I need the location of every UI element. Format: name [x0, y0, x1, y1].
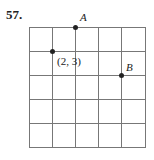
point-a: [73, 25, 78, 30]
coordinate-grid: [0, 0, 154, 160]
point-b-label: B: [126, 61, 133, 73]
point-b: [119, 73, 124, 78]
point-given: [50, 49, 55, 54]
point-given-label: (2, 3): [57, 55, 81, 67]
point-a-label: A: [80, 11, 87, 23]
